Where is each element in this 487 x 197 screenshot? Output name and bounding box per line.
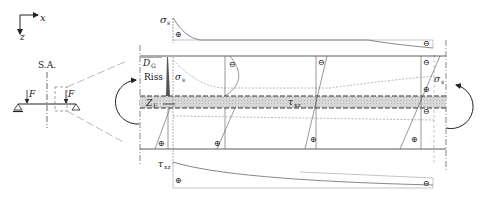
svg-text:F: F xyxy=(28,89,36,99)
svg-text:F: F xyxy=(67,89,75,99)
svg-text:Riss: Riss xyxy=(144,72,163,82)
svg-text:s: s xyxy=(167,19,170,26)
svg-text:G: G xyxy=(151,62,156,69)
bond-stress-diagram-bottom: τ xz ⊕ ⊖ xyxy=(158,159,433,188)
svg-text:F: F xyxy=(153,102,157,109)
svg-text:σ: σ xyxy=(434,74,441,84)
svg-text:σ: σ xyxy=(175,72,182,82)
svg-text:⊖: ⊖ xyxy=(318,58,325,67)
svg-text:⊖: ⊖ xyxy=(229,60,236,69)
svg-text:⊖: ⊖ xyxy=(423,39,430,48)
steel-stress-diagram-top: σ s ⊕ ⊖ xyxy=(160,14,433,48)
svg-text:⊖: ⊖ xyxy=(423,179,430,188)
reinforcement-layer xyxy=(140,96,446,108)
svg-text:⊖: ⊖ xyxy=(423,58,430,67)
diagram-canvas: x z S.A. F F σ s ⊕ ⊖ xyxy=(0,0,487,197)
beam-overview: S.A. F F xyxy=(13,60,127,143)
svg-text:⊕: ⊕ xyxy=(310,135,317,144)
svg-text:D: D xyxy=(142,58,150,68)
support-left-icon xyxy=(14,104,22,110)
svg-text:⊕: ⊕ xyxy=(423,85,430,94)
detail-region-box xyxy=(55,87,67,111)
crack-shape xyxy=(166,57,170,96)
cross-section-detail: D G Riss σ s Z F ⊖ ⊖ ⊕ ⊕ ⊕ ⊖ ⊕ ⊖ ⊕ σ s τ xyxy=(140,40,446,170)
moment-arrow-left-icon xyxy=(115,80,139,124)
svg-text:xz: xz xyxy=(164,163,171,170)
symmetry-axis-label: S.A. xyxy=(38,60,56,70)
svg-text:s: s xyxy=(182,76,185,83)
svg-text:⊖: ⊖ xyxy=(423,107,430,116)
svg-text:⊕: ⊕ xyxy=(214,139,221,148)
svg-text:⊕: ⊕ xyxy=(158,139,165,148)
z-axis-label: z xyxy=(19,32,25,42)
svg-text:Z: Z xyxy=(145,98,153,108)
moment-arrow-right-icon xyxy=(446,85,473,129)
coordinate-axes: x z xyxy=(19,12,46,42)
svg-text:⊕: ⊕ xyxy=(411,135,418,144)
svg-text:s: s xyxy=(441,78,444,85)
x-axis-label: x xyxy=(40,12,46,23)
svg-text:⊕: ⊕ xyxy=(175,176,182,185)
support-right-icon xyxy=(72,104,80,110)
svg-text:xz: xz xyxy=(294,101,301,108)
svg-text:⊕: ⊕ xyxy=(175,30,182,39)
